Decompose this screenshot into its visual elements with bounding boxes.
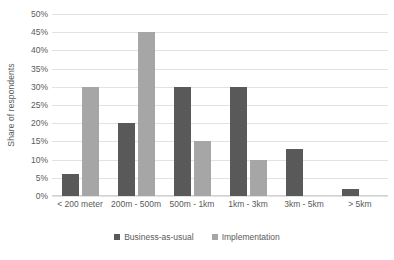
bar bbox=[62, 174, 79, 196]
y-axis-tick-label: 40% bbox=[31, 45, 48, 55]
legend-label: Implementation bbox=[222, 232, 280, 242]
bars-layer bbox=[52, 14, 388, 196]
y-axis-title: Share of respondents bbox=[0, 0, 22, 210]
bar-chart: Share of respondents 50%45%40%35%30%25%2… bbox=[0, 0, 394, 260]
x-axis-tick-label: > 5km bbox=[332, 199, 388, 217]
bar bbox=[118, 123, 135, 196]
y-axis-tick-label: 25% bbox=[31, 100, 48, 110]
bar bbox=[138, 32, 155, 196]
legend-item[interactable]: Business-as-usual bbox=[114, 232, 193, 242]
y-axis-tick-label: 10% bbox=[31, 155, 48, 165]
y-axis-tick-label: 20% bbox=[31, 118, 48, 128]
bar-group bbox=[276, 14, 332, 196]
legend-item[interactable]: Implementation bbox=[212, 232, 280, 242]
bar bbox=[230, 87, 247, 196]
bar bbox=[250, 160, 267, 196]
x-axis-tick-label: 200m - 500m bbox=[108, 199, 164, 217]
bar-group bbox=[108, 14, 164, 196]
bar-group bbox=[220, 14, 276, 196]
bar bbox=[174, 87, 191, 196]
bar bbox=[286, 149, 303, 196]
bar-group bbox=[164, 14, 220, 196]
y-axis-title-label: Share of respondents bbox=[6, 63, 16, 146]
bar bbox=[342, 189, 359, 196]
plot-area bbox=[52, 14, 388, 196]
legend-swatch-icon bbox=[114, 234, 120, 240]
bar-group bbox=[332, 14, 388, 196]
x-axis-tick-label: < 200 meter bbox=[52, 199, 108, 217]
x-axis-tick-labels: < 200 meter200m - 500m500m - 1km1km - 3k… bbox=[52, 199, 388, 217]
chart-legend: Business-as-usualImplementation bbox=[0, 232, 394, 242]
x-axis-tick-label: 3km - 5km bbox=[276, 199, 332, 217]
y-axis-tick-label: 45% bbox=[31, 27, 48, 37]
y-axis-tick-label: 15% bbox=[31, 136, 48, 146]
legend-swatch-icon bbox=[212, 234, 218, 240]
bar bbox=[82, 87, 99, 196]
y-axis-tick-label: 0% bbox=[36, 191, 48, 201]
bar-group bbox=[52, 14, 108, 196]
y-axis-tick-labels: 50%45%40%35%30%25%20%15%10%5%0% bbox=[22, 14, 52, 196]
x-axis-tick-label: 500m - 1km bbox=[164, 199, 220, 217]
y-axis-tick-label: 35% bbox=[31, 64, 48, 74]
legend-label: Business-as-usual bbox=[124, 232, 193, 242]
y-axis-tick-label: 30% bbox=[31, 82, 48, 92]
bar bbox=[194, 141, 211, 196]
y-axis-tick-label: 50% bbox=[31, 9, 48, 19]
x-axis-tick-label: 1km - 3km bbox=[220, 199, 276, 217]
gridline bbox=[52, 196, 388, 197]
y-axis-tick-label: 5% bbox=[36, 173, 48, 183]
